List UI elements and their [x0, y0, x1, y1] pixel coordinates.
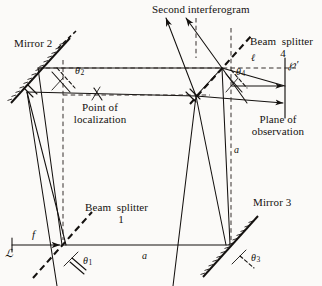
label-beam-splitter-4-line1: Beam splitter [250, 35, 313, 47]
label-plane-of-observation-line1: Plane of [243, 113, 313, 125]
solid-beam-paths [12, 18, 285, 286]
ray-bs1-to-mirror2-a [38, 68, 62, 245]
mirror-3-line [203, 216, 258, 277]
label-source-symbol: ℒ [5, 247, 13, 259]
label-mirror-3: Mirror 3 [253, 196, 291, 208]
ray-extension-left-down [173, 96, 196, 286]
label-beam-splitter-4-line2: 4 [250, 47, 316, 59]
label-beam-splitter-1-line2: 1 [85, 213, 157, 225]
label-origin-prime: ℘′ [288, 58, 299, 70]
theta-4-subscript: 4 [241, 69, 245, 78]
label-distance-a-vertical: a [234, 144, 239, 155]
ray-mirror3-to-bs4-b [196, 96, 226, 245]
ray-output-lower [196, 96, 283, 103]
angle-tick-marks [24, 68, 254, 274]
mirror-2-dashed-companion [58, 31, 76, 48]
ray-second-interferogram-b [186, 18, 222, 68]
label-theta-1: θ1 [83, 255, 92, 268]
label-beam-splitter-1-line1: Beam splitter [85, 201, 148, 213]
theta-1-subscript: 1 [88, 258, 92, 267]
label-second-interferogram: Second interferogram [152, 3, 250, 15]
label-distance-a-horizontal: a [142, 250, 147, 261]
theta-2-subscript: 2 [80, 68, 84, 77]
label-point-of-localization-line2: localization [64, 113, 136, 125]
ray-bs1-to-mirror2-b [27, 92, 66, 245]
theta-3-subscript: 3 [256, 255, 260, 264]
label-plane-of-observation-line2: observation [243, 125, 313, 137]
label-theta-2: θ2 [75, 65, 84, 78]
label-mirror-2: Mirror 2 [14, 37, 52, 49]
label-theta-3: θ3 [251, 252, 260, 265]
interferometer-figure: Mirror 2 Mirror 3 Beam splitter 1 Beam s… [0, 0, 322, 286]
ray-mirror3-to-bs4-a [222, 68, 230, 245]
label-ell: ℓ [251, 52, 255, 63]
ray-second-interferogram-a [166, 18, 196, 96]
ray-extension-mirror2-down [27, 92, 57, 286]
label-theta-4: θ4 [236, 66, 245, 79]
label-frequency-f: f [32, 228, 35, 240]
label-point-of-localization-line1: Point of [64, 101, 136, 113]
